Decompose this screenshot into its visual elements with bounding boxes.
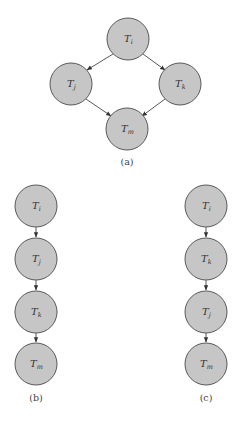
node-b-tj: Tj <box>15 238 57 280</box>
edge-ti-tk <box>143 54 165 70</box>
caption-a: (a) <box>120 156 133 167</box>
edge-tj-tm <box>86 99 111 116</box>
node-b-tm: Tm <box>15 343 57 385</box>
caption-c: (c) <box>200 392 213 403</box>
edge-ti-tj <box>87 54 113 70</box>
node-b-tk: Tk <box>15 291 57 333</box>
node-c-tk: Tk <box>185 238 227 280</box>
node-c-ti: Ti <box>185 185 227 227</box>
edge-tk-tm <box>142 99 165 116</box>
node-b-ti: Ti <box>15 185 57 227</box>
precedence-graph-figure: Ti Tj Tk Tm (a) Ti Tj Tk <box>0 0 242 424</box>
diagram-c: Ti Tk Tj Tm (c) <box>185 185 227 403</box>
node-c-tm: Tm <box>185 343 227 385</box>
caption-b: (b) <box>29 392 43 403</box>
node-c-tj: Tj <box>185 291 227 333</box>
diagram-a: Ti Tj Tk Tm (a) <box>50 18 201 167</box>
node-a-ti: Ti <box>107 18 149 60</box>
node-a-tk: Tk <box>159 63 201 105</box>
node-a-tm: Tm <box>106 108 148 150</box>
node-a-tj: Tj <box>50 63 92 105</box>
diagram-b: Ti Tj Tk Tm (b) <box>15 185 57 403</box>
